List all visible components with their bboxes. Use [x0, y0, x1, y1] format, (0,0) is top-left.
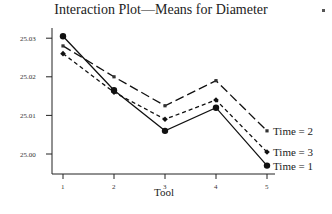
x-tick-label: 1	[61, 183, 65, 191]
circle-marker	[162, 128, 168, 134]
diamond-marker	[162, 116, 168, 122]
square-marker	[112, 75, 115, 78]
series-label: Time = 2	[273, 125, 313, 137]
series-label: Time = 1	[273, 160, 313, 172]
plot-area: 25.0025.0125.0225.03 12345 Time = 1Time …	[0, 0, 332, 214]
square-marker	[61, 44, 64, 47]
x-tick-label: 4	[214, 183, 218, 191]
square-marker	[214, 79, 217, 82]
series-label: Time = 3	[273, 146, 314, 158]
y-tick-label: 25.00	[20, 151, 36, 159]
x-axis-label: Tool	[154, 186, 174, 198]
circle-marker	[264, 162, 270, 168]
square-marker	[265, 129, 268, 132]
circle-marker	[60, 33, 66, 39]
y-tick-label: 25.02	[20, 73, 36, 81]
series-lines: Time = 1Time = 2Time = 3	[60, 33, 314, 172]
y-ticks: 25.0025.0125.0225.03	[20, 35, 52, 159]
x-tick-label: 2	[112, 183, 116, 191]
y-tick-label: 25.01	[20, 112, 36, 120]
square-marker	[163, 104, 166, 107]
y-tick-label: 25.03	[20, 35, 36, 43]
circle-marker	[213, 104, 219, 110]
series-2: Time = 2	[61, 44, 313, 137]
x-tick-label: 5	[265, 183, 269, 191]
